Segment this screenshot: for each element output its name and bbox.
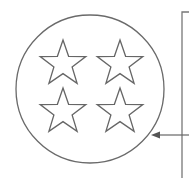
- arrow-into-circle: [151, 132, 189, 139]
- star-icon: [40, 40, 86, 83]
- outer-circle: [16, 15, 164, 163]
- star-icon: [97, 40, 143, 83]
- star-icon: [97, 88, 143, 131]
- star-icon: [40, 88, 86, 131]
- arrowhead-icon: [151, 132, 160, 139]
- circle-with-stars: [16, 15, 164, 163]
- bracket-line: [182, 12, 189, 178]
- diagram-canvas: [0, 0, 189, 181]
